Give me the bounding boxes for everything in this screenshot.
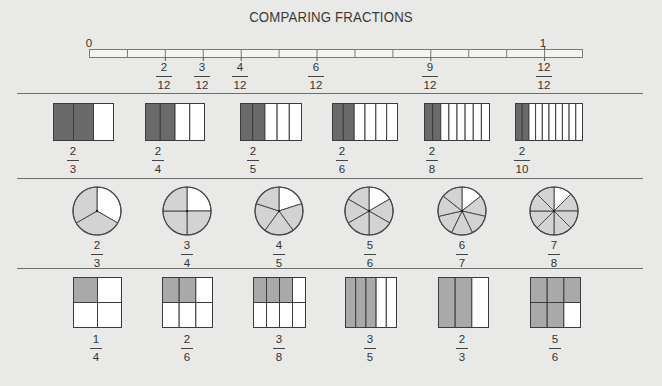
bar-model-2-5 bbox=[241, 104, 302, 141]
bar-label-2-6: 26 bbox=[327, 146, 357, 175]
bar-models-graphics bbox=[0, 0, 662, 386]
grid-label-2-3: 23 bbox=[447, 334, 477, 363]
grid-model-2-6 bbox=[163, 278, 213, 328]
pie-model-6-7 bbox=[438, 187, 486, 235]
bar-label-2-8: 28 bbox=[417, 146, 447, 175]
bar-label-2-3: 23 bbox=[58, 146, 88, 175]
section-divider bbox=[17, 178, 643, 179]
pie-label-2-3: 23 bbox=[82, 240, 112, 269]
pie-model-3-4 bbox=[163, 187, 211, 235]
pie-label-4-5: 45 bbox=[264, 240, 294, 269]
pie-model-7-8 bbox=[530, 187, 578, 235]
grid-label-5-6: 56 bbox=[540, 334, 570, 363]
grid-model-5-6 bbox=[531, 278, 581, 328]
bar-label-2-5: 25 bbox=[238, 146, 268, 175]
grid-label-2-6: 26 bbox=[172, 334, 202, 363]
pie-label-7-8: 78 bbox=[539, 240, 569, 269]
bar-model-2-8 bbox=[425, 104, 490, 141]
comparing-fractions-diagram: COMPARING FRACTIONS 0 1 212 312 412 612 … bbox=[0, 0, 662, 386]
section-divider bbox=[17, 268, 643, 269]
grid-model-1-4 bbox=[74, 278, 122, 328]
grid-model-3-5 bbox=[346, 278, 397, 328]
pie-model-2-3 bbox=[73, 187, 121, 235]
grid-model-2-3 bbox=[439, 278, 489, 328]
bar-label-2-4: 24 bbox=[143, 146, 173, 175]
bar-model-2-10 bbox=[516, 104, 583, 141]
grid-label-1-4: 14 bbox=[81, 334, 111, 363]
pie-model-5-6 bbox=[345, 187, 393, 235]
bar-model-2-6 bbox=[333, 104, 398, 141]
bar-model-2-3 bbox=[54, 104, 114, 141]
grid-model-3-8 bbox=[254, 278, 306, 328]
pie-model-4-5 bbox=[255, 187, 303, 235]
bar-label-2-10: 210 bbox=[507, 146, 537, 175]
grid-label-3-5: 35 bbox=[355, 334, 385, 363]
grid-label-3-8: 38 bbox=[264, 334, 294, 363]
pie-label-6-7: 67 bbox=[447, 240, 477, 269]
pie-label-3-4: 34 bbox=[172, 240, 202, 269]
pie-label-5-6: 56 bbox=[355, 240, 385, 269]
bar-model-2-4 bbox=[146, 104, 205, 141]
